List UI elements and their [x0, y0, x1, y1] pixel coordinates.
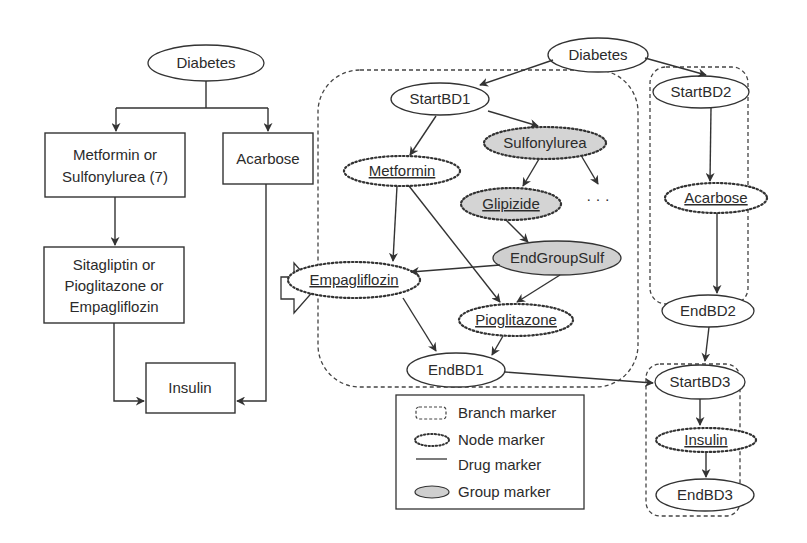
- endbd1-label: EndBD1: [428, 361, 484, 378]
- edge-endbd2-startbd3: [705, 327, 709, 361]
- box1-line2: Sulfonylurea (7): [62, 168, 168, 185]
- edge-startbd1-metformin: [410, 116, 436, 155]
- metformin-sulfonylurea-box: [45, 133, 185, 197]
- box2-line2: Pioglitazone or: [64, 277, 163, 294]
- diagram-canvas: Diabetes Metformin or Sulfonylurea (7) A…: [0, 0, 807, 543]
- edge-pioglitazone-endbd1: [492, 336, 503, 355]
- insulin-node-label: Insulin: [684, 431, 727, 448]
- left-diabetes-label: Diabetes: [176, 54, 235, 71]
- endgroupsulf-label: EndGroupSulf: [510, 249, 605, 266]
- right-diabetes-label: Diabetes: [568, 46, 627, 63]
- metformin-label: Metformin: [369, 162, 436, 179]
- startbd1-label: StartBD1: [410, 90, 471, 107]
- edge-diabetes-startbd1: [480, 60, 553, 85]
- sulfonylurea-label: Sulfonylurea: [503, 134, 587, 151]
- edge-endgroupsulf-empagliflozin: [411, 265, 500, 272]
- edge-endbd1-startbd3: [505, 372, 653, 383]
- edge-sulfonylurea-more: [582, 157, 598, 184]
- edge-metformin-empagliflozin: [393, 186, 397, 261]
- acarbose-node-label: Acarbose: [684, 189, 747, 206]
- glipizide-label: Glipizide: [482, 195, 540, 212]
- startbd3-label: StartBD3: [670, 373, 731, 390]
- edge-startbd1-sulfonylurea: [488, 111, 538, 126]
- startbd2-label: StartBD2: [671, 83, 732, 100]
- legend: Branch marker Node marker Drug marker Gr…: [396, 395, 584, 509]
- edge-empagliflozin-endbd1: [403, 298, 436, 351]
- edge-glipizide-endgroupsulf: [506, 220, 528, 242]
- more-drugs-ellipsis: · · ·: [586, 190, 609, 207]
- legend-drug-label: Drug marker: [458, 456, 541, 473]
- arrow-acarbose-to-insulin: [237, 184, 266, 401]
- acarbose-box-label: Acarbose: [236, 150, 299, 167]
- pioglitazone-label: Pioglitazone: [475, 311, 557, 328]
- box2-line1: Sitagliptin or: [73, 256, 156, 273]
- legend-branch-label: Branch marker: [458, 404, 556, 421]
- edge-startbd2-acarbose: [710, 108, 711, 181]
- box2-line3: Empagliflozin: [69, 298, 158, 315]
- empagliflozin-label: Empagliflozin: [309, 271, 398, 288]
- endbd2-label: EndBD2: [680, 302, 736, 319]
- group-marker-icon: [415, 486, 449, 498]
- endbd3-label: EndBD3: [677, 486, 733, 503]
- edge-endgroupsulf-pioglitazone: [517, 275, 560, 302]
- insulin-box-label: Insulin: [168, 379, 211, 396]
- box1-line1: Metformin or: [73, 146, 157, 163]
- arrow-step2-to-insulin: [114, 323, 144, 401]
- left-flowchart: Diabetes Metformin or Sulfonylurea (7) A…: [44, 45, 313, 413]
- legend-group-label: Group marker: [458, 483, 551, 500]
- left-split-connector: [116, 81, 268, 108]
- legend-node-label: Node marker: [458, 431, 545, 448]
- branch1-region: [318, 70, 638, 387]
- edge-sulfonylurea-glipizide: [523, 159, 539, 186]
